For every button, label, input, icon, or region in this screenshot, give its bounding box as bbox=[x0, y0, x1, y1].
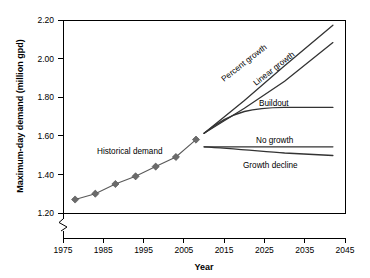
y-tick-label: 1.60 bbox=[37, 131, 54, 141]
y-tick-label: 1.20 bbox=[37, 208, 54, 218]
annotation-buildout: Buildout bbox=[259, 99, 289, 108]
x-tick-label: 2015 bbox=[215, 245, 234, 255]
annotation-growth-decline: Growth decline bbox=[243, 161, 298, 170]
annotation-no-growth: No growth bbox=[256, 136, 294, 145]
x-tick-label: 2035 bbox=[295, 245, 314, 255]
x-tick-label: 2025 bbox=[255, 245, 274, 255]
y-tick-label: 2.20 bbox=[37, 15, 54, 25]
x-tick-label: 2005 bbox=[174, 245, 193, 255]
line-chart-canvas: 2.20 2.00 1.80 1.60 1.40 1.20 1975 bbox=[0, 0, 370, 278]
x-tick-label: 1975 bbox=[54, 245, 73, 255]
y-axis-title: Maximum-day demand (million gpd) bbox=[15, 39, 25, 193]
x-tick-label: 1985 bbox=[94, 245, 113, 255]
y-tick-label: 1.40 bbox=[37, 170, 54, 180]
annotation-historical-demand: Historical demand bbox=[97, 147, 163, 156]
chart-figure: 2.20 2.00 1.80 1.60 1.40 1.20 1975 bbox=[0, 0, 370, 278]
y-tick-label: 2.00 bbox=[37, 54, 54, 64]
x-axis-title: Year bbox=[194, 262, 214, 272]
x-tick-label: 1995 bbox=[134, 245, 153, 255]
x-tick-label: 2045 bbox=[336, 245, 355, 255]
y-tick-label: 1.80 bbox=[37, 92, 54, 102]
chart-background bbox=[0, 0, 370, 278]
